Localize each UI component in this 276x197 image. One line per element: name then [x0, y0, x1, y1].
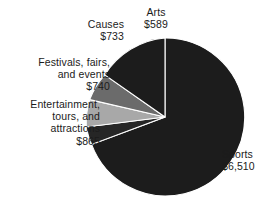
pie-label-arts: Arts $589 [126, 6, 186, 30]
pie-label-causes: Causes $733 [58, 18, 124, 42]
pie-chart: Arts $589 Causes $733 Festivals, fairs, … [0, 0, 276, 197]
pie-label-sports: Sports $6,510 [222, 148, 274, 172]
pie-label-entertainment: Entertainment, tours, and attractions $8… [8, 98, 100, 147]
pie-label-festivals: Festivals, fairs, and events $740 [18, 56, 110, 93]
